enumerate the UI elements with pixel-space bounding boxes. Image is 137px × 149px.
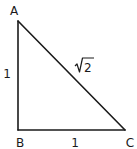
vertex-a-label: A xyxy=(10,4,19,18)
side-ac-length-label: 2 xyxy=(75,58,94,75)
radicand-text: 2 xyxy=(84,61,92,75)
vertex-c-label: C xyxy=(126,136,134,149)
side-ab-length-label: 1 xyxy=(3,67,11,81)
side-bc-length-label: 1 xyxy=(71,136,79,149)
right-triangle-diagram: A B C 1 1 2 xyxy=(0,0,137,149)
vertex-b-label: B xyxy=(16,136,24,149)
side-ac-hypotenuse xyxy=(18,21,125,130)
